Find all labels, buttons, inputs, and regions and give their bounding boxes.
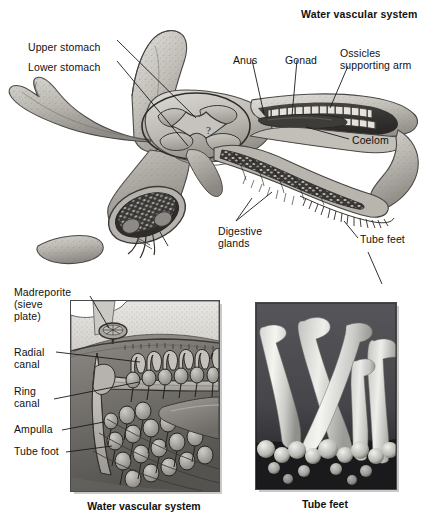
label-ring-canal-line2: canal — [14, 398, 40, 410]
gonad-structure — [259, 114, 347, 128]
label-radial-canal-line1: Radial — [14, 347, 44, 359]
label-ossicles-line1: Ossicles — [340, 48, 380, 60]
label-ampulla: Ampulla — [14, 424, 53, 436]
detached-plate — [37, 235, 103, 263]
tube-feet-micrograph-panel — [255, 302, 397, 490]
svg-text:?: ? — [206, 124, 211, 136]
arm-lower-left-cut — [100, 150, 194, 258]
water-vascular-system-panel — [70, 300, 220, 492]
label-tube-feet-main: Tube feet — [360, 234, 405, 246]
label-madreporite-line3: plate) — [14, 311, 41, 323]
label-digestive-glands-line1: Digestive — [218, 226, 262, 238]
label-madreporite-line1: Madreporite — [14, 287, 71, 299]
label-radial-canal-line2: canal — [14, 359, 40, 371]
label-coelom: Coelom — [352, 135, 389, 147]
label-gonad: Gonad — [285, 55, 317, 67]
label-digestive-glands-line2: glands — [218, 238, 250, 250]
label-ossicles-line2: supporting arm — [340, 60, 411, 72]
label-tube-foot: Tube foot — [14, 446, 59, 458]
right-panel-caption: Tube feet — [255, 498, 395, 510]
label-upper-stomach: Upper stomach — [28, 42, 101, 54]
left-panel-caption: Water vascular system — [70, 500, 218, 512]
label-madreporite-line2: (sieve — [14, 299, 43, 311]
arm-left — [9, 77, 152, 142]
figure-title: Water vascular system — [301, 9, 418, 21]
sea-star-anatomy-figure: ? — [0, 0, 426, 519]
label-ring-canal-line1: Ring — [14, 386, 36, 398]
label-lower-stomach: Lower stomach — [28, 62, 101, 74]
label-anus: Anus — [233, 55, 257, 67]
